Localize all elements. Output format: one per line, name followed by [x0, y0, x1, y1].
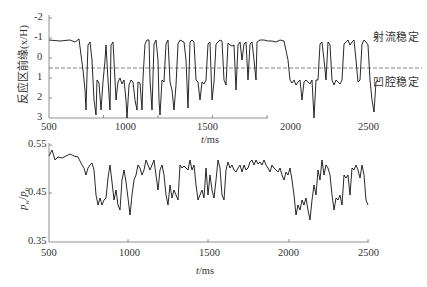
bottom-xtick-label: 500 [41, 247, 57, 258]
bottom-ylabel: pw/p0 [16, 188, 31, 210]
bottom-chart-plot [0, 0, 427, 287]
bottom-xlabel: t/ms [196, 265, 214, 276]
bottom-xtick-label: 1000 [119, 247, 140, 258]
bottom-xtick-label: 2000 [278, 247, 299, 258]
bottom-xtick-label: 1500 [199, 247, 220, 258]
bottom-ytick-label: 0.35 [28, 235, 46, 246]
bottom-xtick-label: 2500 [358, 247, 379, 258]
bottom-ytick-label: 0.55 [28, 138, 46, 149]
